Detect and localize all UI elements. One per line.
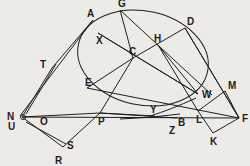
segment-x-w xyxy=(98,33,198,94)
label-r: R xyxy=(55,155,63,166)
label-u: U xyxy=(8,121,15,132)
segment-n-p xyxy=(22,113,100,117)
label-x: X xyxy=(96,35,103,46)
label-c: C xyxy=(129,46,136,57)
label-p: P xyxy=(98,116,105,127)
label-t: T xyxy=(40,59,46,70)
label-m: M xyxy=(228,80,236,91)
segment-n-t xyxy=(22,68,52,117)
label-w: W xyxy=(202,89,212,100)
segment-h-w xyxy=(158,45,198,94)
construction-lines xyxy=(20,10,239,147)
segment-n-f xyxy=(22,117,239,118)
label-d: D xyxy=(187,16,194,27)
label-y: Y xyxy=(150,104,157,115)
label-k: K xyxy=(210,136,218,147)
segment-e-c xyxy=(87,58,133,88)
label-h: H xyxy=(154,33,161,44)
label-b: B xyxy=(178,117,185,128)
label-o: O xyxy=(40,116,48,127)
segment-h-l xyxy=(158,45,198,111)
geometric-diagram: AGDHCXTEPNUOSRWYBZLMFK xyxy=(0,0,250,166)
segment-m-f xyxy=(225,91,239,118)
label-s: S xyxy=(67,140,74,151)
segment-d-f xyxy=(185,28,239,118)
inner-arc-1 xyxy=(150,98,196,116)
segment-c-p xyxy=(100,58,133,113)
segment-k-f xyxy=(213,118,239,133)
label-z: Z xyxy=(169,125,175,136)
label-a: A xyxy=(87,8,94,19)
label-l: L xyxy=(196,114,202,125)
label-f: F xyxy=(242,113,248,124)
segment-a-t xyxy=(52,20,93,68)
label-g: G xyxy=(118,0,126,9)
label-e: E xyxy=(85,77,92,88)
